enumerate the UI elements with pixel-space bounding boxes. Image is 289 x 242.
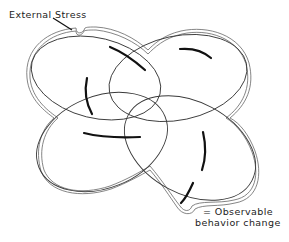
observable-behavior-legend: = Observable behavior change (203, 206, 281, 228)
ellipse-bottom-right (107, 75, 274, 222)
ellipse-top-left (22, 23, 169, 133)
behavior-arrow-left (86, 78, 92, 114)
outer-boundary (27, 27, 259, 214)
observable-legend-line2: behavior change (195, 217, 281, 228)
external-stress-label: External Stress (9, 9, 87, 20)
observable-legend-line1: = Observable (203, 206, 273, 217)
behavior-arrow-top-center (110, 47, 145, 70)
behavior-arrow-right (202, 132, 205, 170)
behavior-arrow-top-right (180, 49, 211, 58)
behavior-arrow-bottom-center (84, 133, 140, 137)
ellipse-top-right (101, 22, 255, 133)
behavior-arrow-bottom-right (181, 183, 193, 203)
ellipse-bottom-left (22, 74, 183, 210)
